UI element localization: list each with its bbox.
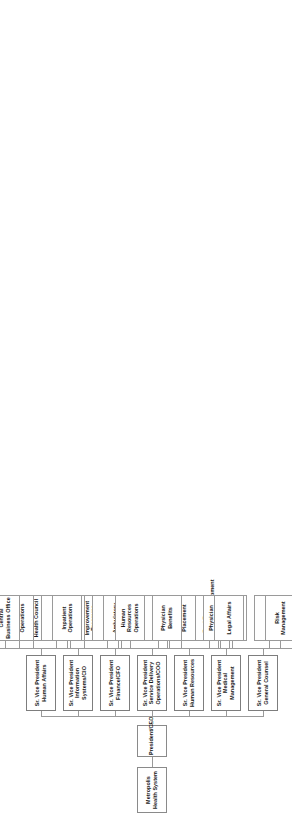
connector-general-counsel-bus [263, 649, 264, 655]
connector-service-delivery-bus [152, 649, 153, 655]
division-node-human-resources-label: Sr. Vice President Human Resources [182, 657, 194, 709]
connector-bus-general-counsel [229, 648, 292, 649]
department-node-medical-management-0: Physician Benefits [152, 595, 182, 641]
connector-spine-finance [115, 711, 116, 717]
connector-service-delivery-dept-0 [67, 641, 68, 649]
division-node-general-counsel: Sr. Vice President General Counsel [248, 655, 278, 711]
department-node-general-counsel-0: Legal Affairs [214, 595, 244, 641]
department-node-general-counsel-1-label: Risk Management [274, 597, 286, 639]
connector-human-affairs-bus [41, 649, 42, 655]
division-node-medical-management: Sr. Vice President Medical Management [211, 655, 241, 711]
connector-general-counsel-dept-1 [280, 641, 281, 649]
department-node-service-delivery-0: Inpatient Operations [52, 595, 82, 641]
connector-information-systems-bus [78, 649, 79, 655]
root-node-label: Metropolis Health System [145, 769, 157, 811]
connector-spine-human-resources [189, 711, 190, 717]
connector-spine-general-counsel [263, 711, 264, 717]
connector-human-resources-bus [189, 649, 190, 655]
connector-finance-bus [115, 649, 116, 655]
connector-spine-service-delivery [152, 711, 153, 717]
connector-root-ceo [152, 757, 153, 767]
connector-medical-management-dept-1 [218, 641, 219, 649]
division-node-finance-label: Sr. Vice President Finance/CFO [108, 657, 120, 709]
connector-finance-dept-0 [5, 641, 6, 649]
division-node-information-systems: Sr. Vice President Information Systems/C… [63, 655, 93, 711]
division-node-medical-management-label: Sr. Vice President Medical Management [216, 657, 234, 709]
division-node-human-affairs-label: Sr. Vice President Human Affairs [34, 657, 46, 709]
department-node-human-resources-0: Human Resources Operations [115, 595, 145, 641]
connector-medical-management-dept-0 [167, 641, 168, 649]
department-node-service-delivery-0-label: Inpatient Operations [61, 597, 73, 639]
division-node-general-counsel-label: Sr. Vice President General Counsel [256, 657, 268, 709]
connector-ceo-spine [152, 717, 153, 725]
division-node-information-systems-label: Sr. Vice President Information Systems/C… [68, 657, 86, 709]
org-chart: Metropolis Health SystemPresident/CEOSr.… [0, 0, 292, 823]
division-node-human-affairs: Sr. Vice President Human Affairs [26, 655, 56, 711]
department-node-general-counsel-0-label: Legal Affairs [226, 597, 232, 639]
connector-service-delivery-dept-1 [118, 641, 119, 649]
org-chart-canvas: Metropolis Health SystemPresident/CEOSr.… [0, 0, 292, 823]
root-node: Metropolis Health System [137, 767, 167, 813]
division-node-human-resources: Sr. Vice President Human Resources [174, 655, 204, 711]
division-node-service-delivery: Sr. Vice President Service Delivery Oper… [137, 655, 167, 711]
department-node-finance-0-label: Central Business Office [0, 597, 11, 639]
connector-finance-dept-1 [56, 641, 57, 649]
ceo-node-label: President/CEO [148, 727, 154, 755]
department-node-human-resources-0-label: Human Resources Operations [120, 597, 138, 639]
department-node-general-counsel-1: Risk Management [265, 595, 292, 641]
division-node-finance: Sr. Vice President Finance/CFO [100, 655, 130, 711]
department-node-medical-management-0-label: Physician Benefits [160, 597, 172, 639]
connector-spine-information-systems [78, 711, 79, 717]
connector-medical-management-bus [226, 649, 227, 655]
connector-spine-medical-management [226, 711, 227, 717]
ceo-node: President/CEO [137, 725, 167, 757]
connector-spine-human-affairs [41, 711, 42, 717]
connector-general-counsel-dept-0 [229, 641, 230, 649]
division-node-service-delivery-label: Sr. Vice President Service Delivery Oper… [142, 657, 160, 709]
department-node-finance-0: Central Business Office [0, 595, 20, 641]
connector-human-resources-dept-0 [130, 641, 131, 649]
